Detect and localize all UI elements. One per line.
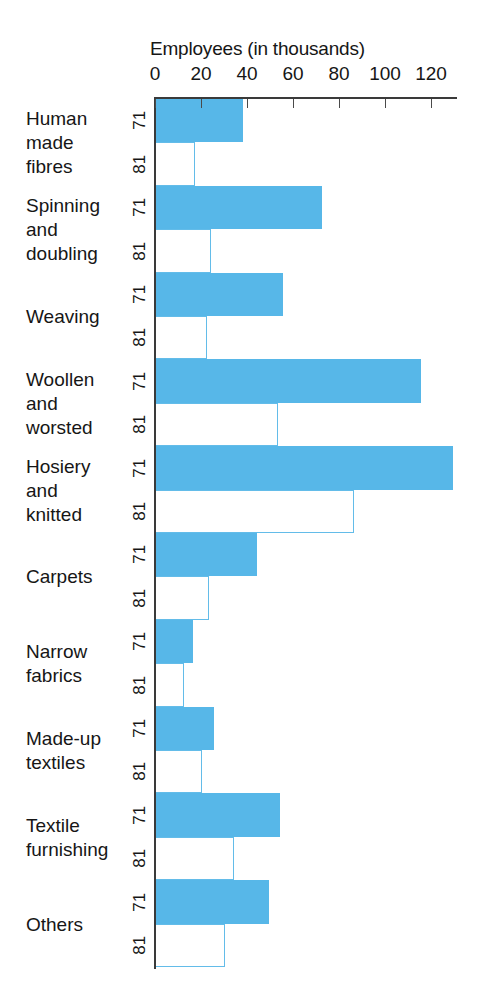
bar-rect bbox=[156, 924, 225, 967]
bar-71 bbox=[156, 793, 280, 836]
bar-rect bbox=[156, 620, 193, 663]
bar-rect bbox=[156, 663, 184, 706]
bar-rect bbox=[156, 576, 209, 619]
bar-71 bbox=[156, 273, 283, 316]
x-tick-label-60: 60 bbox=[282, 63, 303, 85]
year-label-81: 81 bbox=[130, 663, 150, 706]
year-label-81: 81 bbox=[130, 403, 150, 446]
bar-71 bbox=[156, 533, 257, 576]
year-label-71: 71 bbox=[130, 533, 150, 576]
bar-81 bbox=[156, 837, 234, 880]
x-tick-label-0: 0 bbox=[150, 63, 161, 85]
bar-rect bbox=[156, 359, 421, 402]
x-axis-tick-labels: 020406080100120 bbox=[0, 63, 477, 87]
year-group-labels: 7181718171817181718171817181718171817181 bbox=[126, 99, 154, 967]
year-label-71: 71 bbox=[130, 446, 150, 489]
bar-71 bbox=[156, 359, 421, 402]
x-tick-mark-20 bbox=[201, 99, 202, 108]
year-label-81: 81 bbox=[130, 490, 150, 533]
x-tick-label-100: 100 bbox=[369, 63, 401, 85]
bar-71 bbox=[156, 446, 453, 489]
year-label-71: 71 bbox=[130, 359, 150, 402]
x-tick-mark-100 bbox=[385, 99, 386, 108]
year-label-81: 81 bbox=[130, 576, 150, 619]
x-tick-mark-0 bbox=[155, 99, 156, 108]
plot-area bbox=[156, 99, 466, 967]
year-label-81: 81 bbox=[130, 750, 150, 793]
year-label-71: 71 bbox=[130, 186, 150, 229]
x-tick-mark-120 bbox=[431, 99, 432, 108]
bar-rect bbox=[156, 490, 354, 533]
x-tick-label-20: 20 bbox=[190, 63, 211, 85]
x-tick-label-120: 120 bbox=[415, 63, 447, 85]
x-tick-mark-40 bbox=[247, 99, 248, 108]
bar-81 bbox=[156, 142, 195, 185]
bar-rect bbox=[156, 446, 453, 489]
bar-81 bbox=[156, 229, 211, 272]
bar-rect bbox=[156, 707, 214, 750]
bar-chart: Employees (in thousands) 020406080100120… bbox=[0, 0, 477, 983]
bar-rect bbox=[156, 229, 211, 272]
bar-81 bbox=[156, 403, 278, 446]
bar-81 bbox=[156, 576, 209, 619]
bar-rect bbox=[156, 750, 202, 793]
category-labels: Human made fibresSpinning and doublingWe… bbox=[0, 99, 118, 967]
bar-rect bbox=[156, 316, 207, 359]
year-label-81: 81 bbox=[130, 924, 150, 967]
year-label-81: 81 bbox=[130, 142, 150, 185]
bar-81 bbox=[156, 750, 202, 793]
bar-rect bbox=[156, 142, 195, 185]
x-tick-mark-60 bbox=[293, 99, 294, 108]
x-tick-label-40: 40 bbox=[236, 63, 257, 85]
year-label-81: 81 bbox=[130, 837, 150, 880]
year-label-71: 71 bbox=[130, 707, 150, 750]
bar-81 bbox=[156, 663, 184, 706]
x-tick-label-80: 80 bbox=[328, 63, 349, 85]
year-label-71: 71 bbox=[130, 793, 150, 836]
year-label-71: 71 bbox=[130, 880, 150, 923]
bar-81 bbox=[156, 924, 225, 967]
bar-71 bbox=[156, 99, 243, 142]
year-label-71: 71 bbox=[130, 620, 150, 663]
bar-rect bbox=[156, 837, 234, 880]
bar-rect bbox=[156, 533, 257, 576]
year-label-81: 81 bbox=[130, 229, 150, 272]
bar-rect bbox=[156, 186, 322, 229]
bar-rect bbox=[156, 793, 280, 836]
bar-rect bbox=[156, 403, 278, 446]
bar-rect bbox=[156, 99, 243, 142]
year-label-71: 71 bbox=[130, 273, 150, 316]
bar-81 bbox=[156, 316, 207, 359]
bar-71 bbox=[156, 186, 322, 229]
year-label-81: 81 bbox=[130, 316, 150, 359]
x-tick-mark-80 bbox=[339, 99, 340, 108]
bar-71 bbox=[156, 620, 193, 663]
chart-title: Employees (in thousands) bbox=[150, 38, 470, 60]
bar-rect bbox=[156, 880, 269, 923]
bar-71 bbox=[156, 880, 269, 923]
bar-71 bbox=[156, 707, 214, 750]
bar-rect bbox=[156, 273, 283, 316]
bar-81 bbox=[156, 490, 354, 533]
year-label-71: 71 bbox=[130, 99, 150, 142]
